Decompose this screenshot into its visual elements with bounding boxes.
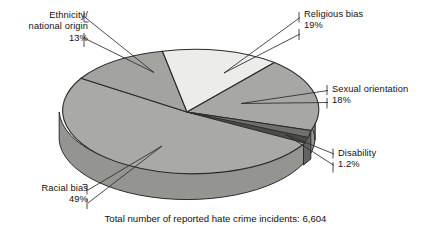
pie-top-faces — [63, 49, 319, 174]
slice-label-sexual-line1: Sexual orientation — [332, 84, 408, 94]
slice-value-disability: 1.2% — [338, 159, 376, 170]
slice-label-ethnicity-line2: national origin — [29, 21, 88, 31]
slice-value-religious: 19% — [304, 20, 363, 31]
slice-label-disability: Disability 1.2% — [338, 148, 376, 171]
slice-label-racial-line1: Racial bias — [41, 183, 88, 193]
slice-label-religious-bias: Religious bias 19% — [304, 9, 363, 32]
slice-value-racial: 49% — [2, 194, 88, 205]
slice-label-racial-bias: Racial bias 49% — [2, 183, 88, 206]
chart-caption: Total number of reported hate crime inci… — [0, 213, 431, 224]
slice-value-ethnicity: 13% — [2, 33, 88, 44]
slice-label-sexual-orientation: Sexual orientation 18% — [332, 84, 408, 107]
slice-label-ethnicity-national-origin: Ethnicity/ national origin 13% — [2, 10, 88, 44]
slice-label-ethnicity-line1: Ethnicity/ — [49, 10, 88, 20]
slice-label-religious-line1: Religious bias — [304, 9, 363, 19]
slice-value-sexual: 18% — [332, 95, 408, 106]
slice-label-disability-line1: Disability — [338, 148, 376, 158]
chart-canvas: Ethnicity/ national origin 13% Racial bi… — [0, 0, 431, 231]
